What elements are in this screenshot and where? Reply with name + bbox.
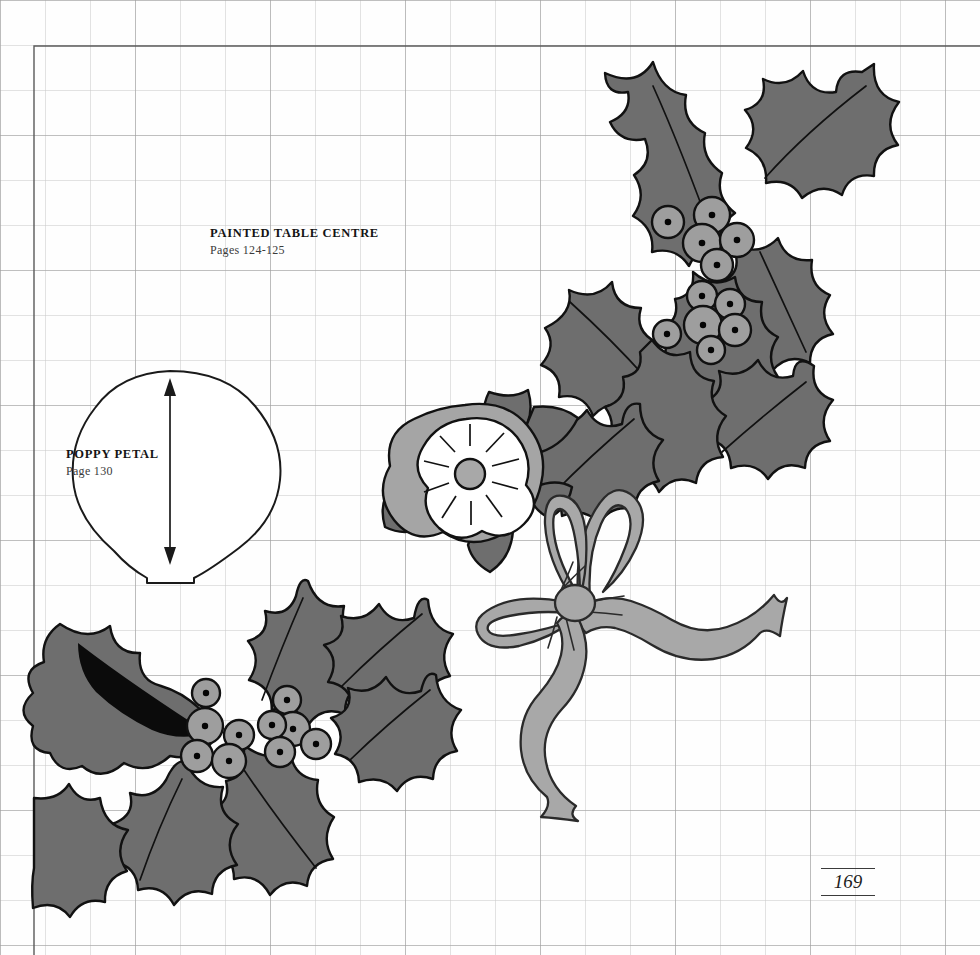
holly-berry-dot [699, 240, 706, 247]
holly-berry-dot [700, 322, 706, 328]
holly-berry-dot [313, 741, 319, 747]
holly-berry-dot [226, 758, 232, 764]
holly-berry-dot [732, 327, 738, 333]
holly-berry-dot [708, 347, 714, 353]
holly-berry-dot [236, 732, 242, 738]
folio-rule-bottom [821, 895, 875, 896]
holly-berry-dot [290, 726, 296, 732]
holly-berry-dot [709, 212, 716, 219]
ribbon-knot [555, 585, 595, 621]
holly-berry-dot [277, 749, 283, 755]
label-painted-table-centre: PAINTED TABLE CENTRE Pages 124-125 [210, 226, 379, 258]
page-folio: 169 [815, 868, 881, 896]
label-subtitle: Pages 124-125 [210, 243, 379, 258]
holly-berry-dot [699, 293, 705, 299]
holly-berry-dot [664, 331, 670, 337]
holly-berry-dot [734, 237, 741, 244]
label-subtitle: Page 130 [66, 464, 159, 479]
holly-berry-dot [202, 723, 208, 729]
pattern-page: PAINTED TABLE CENTRE Pages 124-125 POPPY… [0, 0, 980, 955]
folio-number: 169 [815, 869, 881, 895]
holly-berry-dot [194, 753, 200, 759]
holly-berry-dot [269, 722, 275, 728]
holly-berry-dot [203, 690, 209, 696]
label-title: PAINTED TABLE CENTRE [210, 226, 379, 241]
flower-centre [455, 459, 485, 489]
holly-berry-dot [727, 301, 733, 307]
label-title: POPPY PETAL [66, 447, 159, 462]
holly-berry-dot [714, 262, 721, 269]
holly-berry-dot [665, 219, 672, 226]
holly-berry-dot [284, 697, 290, 703]
label-poppy-petal: POPPY PETAL Page 130 [66, 447, 159, 479]
